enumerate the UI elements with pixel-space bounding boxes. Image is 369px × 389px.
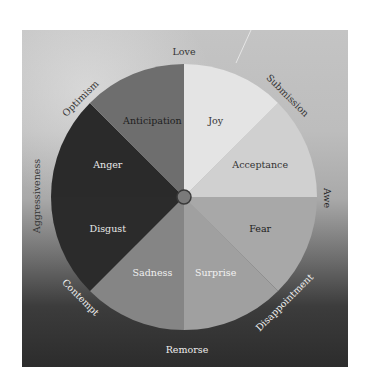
wedge-label-anger: Anger xyxy=(92,159,123,170)
wedge-label-sadness: Sadness xyxy=(133,267,173,278)
dyad-label-aggressiveness: Aggressiveness xyxy=(31,159,42,235)
wedge-label-fear: Fear xyxy=(249,223,271,234)
emotion-wheel: JoyAcceptanceFearSurpriseSadnessDisgustA… xyxy=(0,0,369,389)
wedge-label-surprise: Surprise xyxy=(195,267,237,278)
dyad-label-love: Love xyxy=(172,46,195,57)
dyad-label-remorse: Remorse xyxy=(166,344,209,355)
dyad-label-awe: Awe xyxy=(322,187,333,209)
center-hub-icon xyxy=(177,190,191,204)
decorative-line xyxy=(236,30,251,63)
wedge-label-disgust: Disgust xyxy=(90,223,127,234)
wedge-label-joy: Joy xyxy=(207,115,224,126)
wedge-label-anticipation: Anticipation xyxy=(122,115,182,126)
wedge-label-acceptance: Acceptance xyxy=(231,159,288,170)
